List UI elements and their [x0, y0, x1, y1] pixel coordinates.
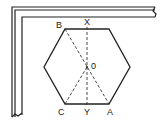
label-c: C: [58, 107, 65, 117]
label-y: Y: [84, 107, 90, 117]
center-point-o: [86, 66, 88, 68]
line-oc: [65, 67, 87, 104]
label-a: A: [107, 107, 113, 117]
label-x: X: [84, 17, 90, 27]
label-b: B: [56, 20, 62, 30]
label-o: 0: [91, 61, 96, 71]
hexagon-diagram: B X 0 C Y A: [0, 0, 166, 122]
